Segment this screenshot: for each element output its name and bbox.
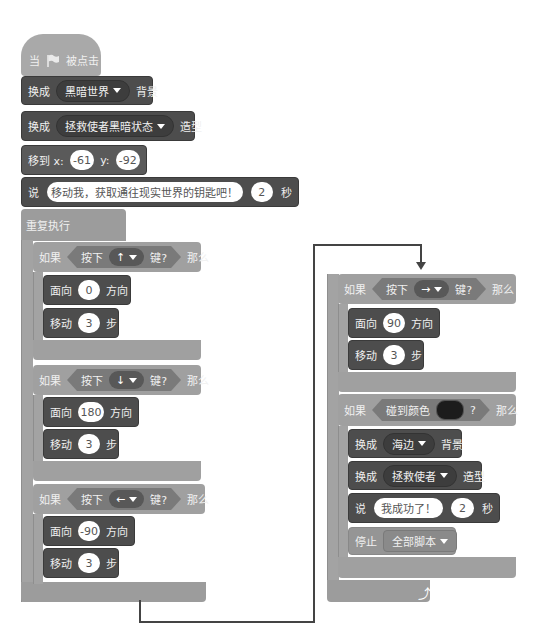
if-right-header: 如果 按下 → 键? 那么 (338, 278, 520, 300)
touching-color-label: 碰到颜色 (386, 402, 430, 418)
chevron-down-icon (129, 378, 137, 383)
hat-content: 当 被点击 (21, 50, 105, 70)
move-steps-block[interactable]: 移动 3 步 (43, 308, 119, 338)
if-label: 如果 (39, 372, 61, 388)
loop-arrow-icon: ⤴ (418, 583, 431, 602)
say-label: 说 (28, 184, 39, 200)
point-label: 面向 (50, 523, 72, 539)
costume-suffix: 造型 (463, 468, 485, 484)
goto-xy-block[interactable]: 移到 x: -61 y: -92 (21, 145, 147, 175)
steps-input[interactable]: 3 (78, 553, 100, 573)
point-direction-block[interactable]: 面向 180 方向 (43, 397, 139, 427)
move-steps-block[interactable]: 移动 3 步 (348, 340, 424, 370)
key-pressed-condition[interactable]: 按下 ↓ 键? (67, 369, 181, 391)
key-dropdown[interactable]: ↓ (109, 371, 144, 389)
point-label: 面向 (50, 282, 72, 298)
direction-input[interactable]: -90 (78, 521, 100, 541)
then-label: 那么 (187, 249, 209, 265)
point-direction-block[interactable]: 面向 0 方向 (43, 275, 131, 305)
steps-suffix: 步 (106, 555, 117, 571)
key-value: → (421, 283, 430, 296)
color-swatch[interactable] (436, 400, 464, 420)
clicked-label: 被点击 (66, 52, 99, 68)
say-message-input[interactable]: 我成功了！ (374, 498, 443, 518)
if-down-header: 如果 按下 ↓ 键? 那么 (33, 369, 215, 391)
stop-dropdown[interactable]: 全部脚本 (383, 530, 457, 552)
backdrop-suffix: 背景 (441, 436, 463, 452)
y-input[interactable]: -92 (116, 150, 140, 170)
key-pressed-condition[interactable]: 按下 → 键? (372, 278, 486, 300)
forever-bottom (21, 582, 206, 602)
chevron-down-icon (129, 497, 137, 502)
direction-input[interactable]: 0 (78, 280, 100, 300)
direction-suffix: 方向 (110, 404, 132, 420)
steps-input[interactable]: 3 (78, 434, 100, 454)
steps-input[interactable]: 3 (78, 313, 100, 333)
costume-suffix: 造型 (180, 118, 202, 134)
say-for-secs-block[interactable]: 说 我成功了！ 2 秒 (348, 493, 500, 523)
move-steps-block[interactable]: 移动 3 步 (43, 429, 119, 459)
point-direction-block[interactable]: 面向 90 方向 (348, 308, 440, 338)
touching-color-condition[interactable]: 碰到颜色 ? (372, 399, 490, 421)
then-label: 那么 (187, 372, 209, 388)
switch-backdrop-block[interactable]: 换成 黑暗世界 背景 (21, 76, 153, 105)
direction-suffix: 方向 (411, 315, 433, 331)
move-steps-block[interactable]: 移动 3 步 (43, 548, 119, 578)
backdrop-suffix: 背景 (136, 83, 158, 99)
steps-input[interactable]: 3 (383, 345, 405, 365)
stop-value: 全部脚本 (392, 533, 436, 549)
costume-dropdown[interactable]: 拯救使者黑暗状态 (56, 115, 174, 137)
arrow-down-icon (416, 262, 426, 270)
right-forever-bottom (327, 580, 430, 602)
if-right-bottom (338, 372, 516, 392)
move-label: 移动 (355, 347, 377, 363)
goto-label: 移到 x: (28, 152, 64, 168)
move-label: 移动 (50, 315, 72, 331)
backdrop-dropdown[interactable]: 海边 (383, 433, 435, 455)
say-secs-input[interactable]: 2 (251, 182, 273, 202)
if-color-bottom (338, 557, 516, 578)
backdrop-dropdown[interactable]: 黑暗世界 (56, 80, 130, 102)
steps-suffix: 步 (106, 436, 117, 452)
costume-value: 拯救使者 (392, 468, 436, 484)
y-label: y: (100, 154, 109, 167)
switch-label: 换成 (28, 83, 50, 99)
stop-label: 停止 (355, 533, 377, 549)
then-label: 那么 (492, 281, 514, 297)
if-up-arm (33, 272, 43, 342)
if-label: 如果 (344, 281, 366, 297)
stop-block[interactable]: 停止 全部脚本 (348, 527, 456, 555)
secs-suffix: 秒 (482, 500, 493, 516)
key-dropdown[interactable]: → (414, 280, 449, 298)
direction-input[interactable]: 90 (383, 313, 405, 333)
switch-backdrop-block[interactable]: 换成 海边 背景 (348, 429, 462, 458)
direction-suffix: 方向 (106, 523, 128, 539)
key-pressed-condition[interactable]: 按下 ← 键? (67, 488, 181, 510)
chevron-down-icon (440, 473, 448, 478)
switch-costume-block[interactable]: 换成 拯救使者黑暗状态 造型 (21, 111, 195, 141)
costume-dropdown[interactable]: 拯救使者 (383, 465, 457, 487)
if-left-header: 如果 按下 ← 键? 那么 (33, 488, 215, 510)
say-for-secs-block[interactable]: 说 移动我，获取通往现实世界的钥匙吧！ 2 秒 (21, 177, 299, 207)
key-dropdown[interactable]: ↑ (109, 248, 144, 266)
when-label: 当 (29, 52, 40, 68)
steps-suffix: 步 (411, 347, 422, 363)
point-direction-block[interactable]: 面向 -90 方向 (43, 516, 135, 546)
if-up-header: 如果 按下 ↑ 键? 那么 (33, 246, 215, 268)
direction-input[interactable]: 180 (78, 402, 104, 422)
say-secs-input[interactable]: 2 (451, 498, 474, 518)
key-suffix: 键? (150, 372, 167, 388)
switch-costume-block[interactable]: 换成 拯救使者 造型 (348, 461, 482, 490)
say-message-input[interactable]: 移动我，获取通往现实世界的钥匙吧！ (47, 182, 243, 202)
connector-line-arrow-stem (420, 244, 422, 264)
if-up-bottom (33, 340, 201, 360)
x-input[interactable]: -61 (70, 150, 94, 170)
forever-arm (21, 240, 33, 602)
if-down-arm (33, 395, 43, 465)
then-label: 那么 (496, 402, 518, 418)
if-label: 如果 (39, 491, 61, 507)
switch-label: 换成 (355, 468, 377, 484)
switch-label: 换成 (28, 118, 50, 134)
key-pressed-condition[interactable]: 按下 ↑ 键? (67, 246, 181, 268)
key-dropdown[interactable]: ← (109, 490, 144, 508)
